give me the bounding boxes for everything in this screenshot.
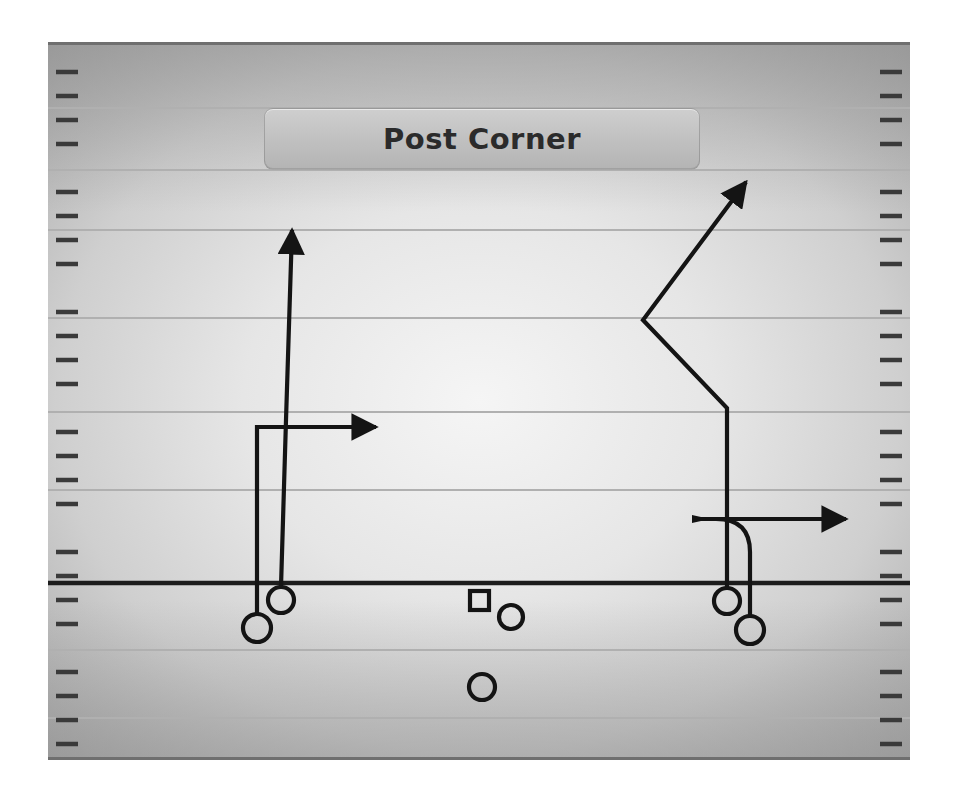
play-diagram: Post Corner [0, 0, 957, 806]
play-title-text: Post Corner [383, 122, 581, 156]
play-title-banner: Post Corner [264, 108, 700, 170]
